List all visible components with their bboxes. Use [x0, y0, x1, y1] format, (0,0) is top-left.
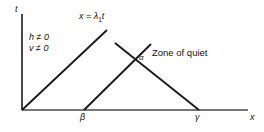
disturbed-region-conditions-label: h ≠ 0 v ≠ 0: [29, 33, 49, 55]
zone-of-quiet-label: Zone of quiet: [152, 48, 207, 58]
alpha-point-label: α: [139, 54, 144, 62]
characteristics-diagram-figure: t x x = λ1t h ≠ 0 v ≠ 0 Zone of quiet α …: [0, 0, 264, 132]
condition-v-label: v ≠ 0: [29, 44, 49, 53]
x-axis-label: x: [250, 113, 255, 122]
diagram-canvas: [0, 0, 264, 132]
gamma-point-label: γ: [195, 113, 200, 122]
beta-point-label: β: [80, 113, 85, 122]
lambda1-line-equation-label: x = λ1t: [79, 12, 104, 23]
lambda-equation-suffix: t: [102, 11, 105, 21]
lambda-equation-prefix: x =: [79, 11, 94, 21]
condition-h-label: h ≠ 0: [29, 33, 49, 42]
t-axis-label: t: [15, 5, 18, 14]
